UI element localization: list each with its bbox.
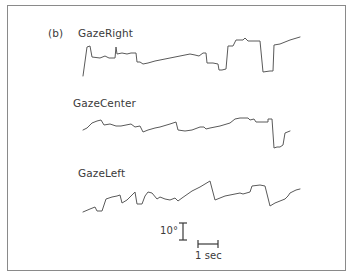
trace-gaze-right <box>83 37 300 76</box>
trace-gaze-left <box>83 181 300 212</box>
scale-label-seconds: 1 sec <box>195 251 222 261</box>
trace-gaze-center <box>83 118 290 148</box>
scale-label-degrees: 10° <box>160 226 178 236</box>
horizontal-scale-bar <box>198 240 218 248</box>
plot-area <box>0 0 351 278</box>
vertical-scale-bar <box>179 223 187 240</box>
